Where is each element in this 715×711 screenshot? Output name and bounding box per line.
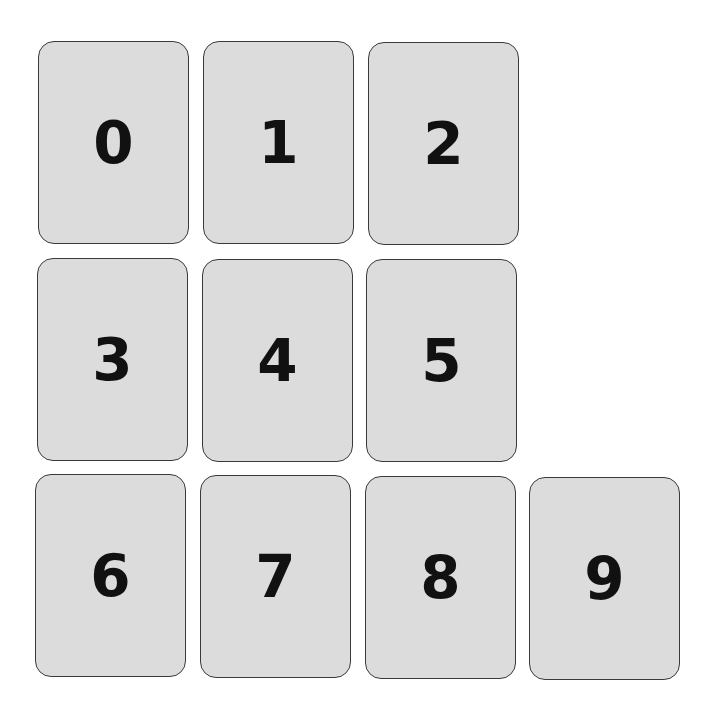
card-9[interactable]: 9 [529,477,680,680]
card-digit: 0 [93,114,133,172]
card-digit: 5 [421,332,461,390]
card-1[interactable]: 1 [203,41,354,244]
card-6[interactable]: 6 [35,474,186,677]
card-4[interactable]: 4 [202,259,353,462]
card-0[interactable]: 0 [38,41,189,244]
card-5[interactable]: 5 [366,259,517,462]
card-digit: 7 [255,548,295,606]
card-digit: 1 [258,114,298,172]
card-digit: 8 [420,549,460,607]
card-8[interactable]: 8 [365,476,516,679]
card-digit: 2 [423,115,463,173]
card-3[interactable]: 3 [37,258,188,461]
card-7[interactable]: 7 [200,475,351,678]
card-2[interactable]: 2 [368,42,519,245]
card-digit: 3 [92,331,132,389]
card-digit: 9 [584,550,624,608]
card-digit: 6 [90,547,130,605]
card-digit: 4 [257,332,297,390]
